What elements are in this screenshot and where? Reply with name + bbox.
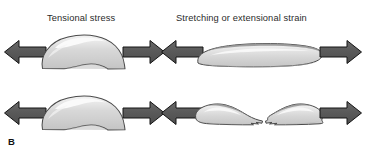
row-1-right-arrow-b <box>320 41 362 64</box>
row-1-right-arrow <box>123 41 165 64</box>
panel-label: B <box>8 136 15 147</box>
row-2-rock-blob-unstretched <box>42 96 125 130</box>
row-2-right-arrow <box>123 102 165 125</box>
row-1-rock-blob-unstretched <box>42 35 125 69</box>
diagram-artwork <box>0 0 365 159</box>
figure-diagram: Tensional stress Stretching or extension… <box>0 0 365 159</box>
row-1-rock-blob-stretched <box>198 44 322 68</box>
row-2-rock-fragment-right <box>266 104 323 125</box>
row-2-rock-fragment-left <box>196 104 263 125</box>
row-1-left-arrow-b <box>162 41 204 64</box>
row-2-right-arrow-b <box>320 102 362 125</box>
row-2-left-arrow <box>5 102 47 125</box>
row-1-left-arrow <box>5 41 47 64</box>
